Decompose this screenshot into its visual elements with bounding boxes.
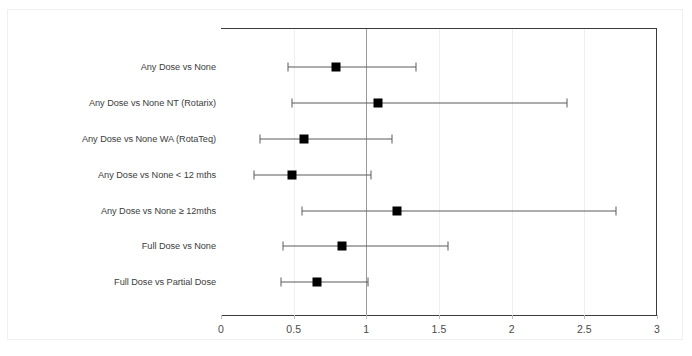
ci-upper-cap	[566, 99, 567, 108]
ci-lower-cap	[260, 135, 261, 144]
confidence-interval-line	[292, 103, 567, 104]
x-axis-tick	[512, 315, 513, 319]
category-label: Any Dose vs None ≥ 12mths	[101, 206, 216, 216]
ci-upper-cap	[415, 63, 416, 72]
x-axis-tick	[366, 315, 367, 319]
x-axis-tick-label: 1.5	[432, 323, 447, 335]
category-labels: Any Dose vs NoneAny Dose vs None NT (Rot…	[0, 0, 216, 356]
point-estimate-marker	[288, 171, 297, 180]
reference-line	[366, 29, 367, 315]
point-estimate-marker	[331, 63, 340, 72]
confidence-interval-line	[254, 175, 370, 176]
gridline	[584, 29, 585, 315]
x-axis-tick-label: 2	[509, 323, 515, 335]
plot-area	[221, 28, 657, 315]
ci-upper-cap	[616, 207, 617, 216]
x-axis-tick	[294, 315, 295, 319]
category-label: Any Dose vs None WA (RotaTeq)	[82, 134, 216, 144]
forest-plot-figure: Any Dose vs NoneAny Dose vs None NT (Rot…	[0, 0, 692, 356]
x-axis-tick-label: 0.5	[286, 323, 301, 335]
point-estimate-marker	[312, 278, 321, 287]
x-axis-tick-label: 3	[654, 323, 660, 335]
gridline	[512, 29, 513, 315]
x-axis-tick-label: 2.5	[577, 323, 592, 335]
ci-lower-cap	[302, 207, 303, 216]
point-estimate-marker	[373, 99, 382, 108]
ci-lower-cap	[283, 242, 284, 251]
confidence-interval-line	[288, 67, 416, 68]
ci-upper-cap	[447, 242, 448, 251]
ci-lower-cap	[254, 171, 255, 180]
confidence-interval-line	[281, 282, 368, 283]
category-label: Any Dose vs None < 12 mths	[98, 170, 216, 180]
ci-upper-cap	[370, 171, 371, 180]
point-estimate-marker	[299, 135, 308, 144]
point-estimate-marker	[392, 207, 401, 216]
point-estimate-marker	[337, 242, 346, 251]
confidence-interval-line	[260, 139, 392, 140]
confidence-interval-line	[283, 246, 447, 247]
x-axis-tick-label: 1	[363, 323, 369, 335]
x-axis-tick-label: 0	[218, 323, 224, 335]
ci-lower-cap	[287, 63, 288, 72]
category-label: Full Dose vs None	[142, 241, 216, 251]
ci-lower-cap	[280, 278, 281, 287]
confidence-interval-line	[302, 211, 616, 212]
ci-lower-cap	[292, 99, 293, 108]
category-label: Any Dose vs None NT (Rotarix)	[89, 98, 216, 108]
category-label: Any Dose vs None	[141, 62, 216, 72]
ci-upper-cap	[367, 278, 368, 287]
gridline	[439, 29, 440, 315]
x-axis-tick	[584, 315, 585, 319]
plot-right-axis	[656, 28, 657, 316]
x-axis-tick	[439, 315, 440, 319]
category-label: Full Dose vs Partial Dose	[114, 277, 216, 287]
ci-upper-cap	[392, 135, 393, 144]
x-axis-tick	[657, 315, 658, 319]
x-axis-tick	[221, 315, 222, 319]
